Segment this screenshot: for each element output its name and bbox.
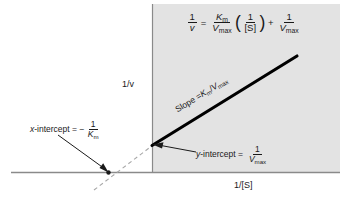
x-intercept-arrowhead <box>100 163 109 172</box>
x-intercept-fraction: 1 Km <box>86 120 101 139</box>
equation-vmax-1: Vmax <box>210 23 233 33</box>
y-axis-label: 1/v <box>122 79 134 89</box>
y-intercept-annotation: y-intercept = 1 Vmax <box>196 145 270 164</box>
x-intercept-leader-line <box>58 135 105 169</box>
y-intercept-text: y-intercept = <box>196 150 245 159</box>
equation-equals-sign: = <box>201 18 207 28</box>
equation-lhs-denominator: v <box>188 23 197 33</box>
y-axis-label-text: 1/v <box>122 79 134 89</box>
lineweaver-burk-figure: 1 v = Km Vmax ( 1 [S] ) + 1 Vmax 1/v 1/[… <box>0 0 349 202</box>
equation-plus-sign: + <box>268 18 274 28</box>
y-intercept-fraction: 1 Vmax <box>247 145 268 164</box>
rate-equation: 1 v = Km Vmax ( 1 [S] ) + 1 Vmax <box>186 12 302 33</box>
equation-lhs-fraction: 1 v <box>188 12 197 33</box>
x-intercept-denominator: Km <box>86 130 101 139</box>
equation-km-vmax-fraction: Km Vmax <box>210 12 233 33</box>
x-intercept-annotation: xx-intercept = -intercept = − 1 Km <box>30 120 102 139</box>
equation-paren-open: ( <box>235 15 241 29</box>
x-axis-label-text: 1/[S] <box>234 180 253 190</box>
y-intercept-denominator: Vmax <box>247 155 268 164</box>
equation-inverse-s-denominator: [S] <box>242 23 258 33</box>
x-intercept-text: xx-intercept = -intercept = <box>30 125 79 134</box>
x-intercept-minus-sign: − <box>79 125 84 134</box>
equation-inverse-s-fraction: 1 [S] <box>242 12 258 33</box>
equation-inverse-vmax-fraction: 1 Vmax <box>278 12 301 33</box>
x-axis-label: 1/[S] <box>234 180 253 190</box>
equation-paren-close: ) <box>260 15 266 29</box>
equation-inverse-vmax-denominator: Vmax <box>278 23 301 33</box>
